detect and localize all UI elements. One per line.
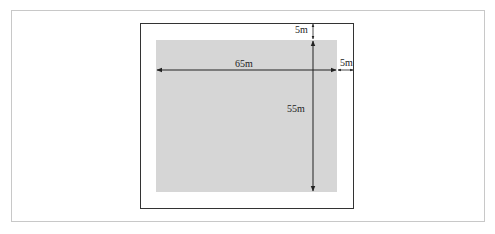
site-plan-diagram: 65m 55m 5m 5m [0, 0, 495, 234]
width-label: 65m [235, 58, 253, 69]
top-margin-label: 5m [295, 24, 308, 35]
right-margin-label: 5m [340, 57, 353, 68]
height-label: 55m [287, 103, 305, 114]
